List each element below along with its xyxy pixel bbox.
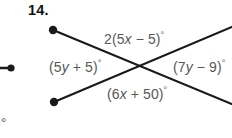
angle-label-right-post: − 9) [193, 59, 222, 75]
degree-symbol-icon: ° [164, 85, 168, 95]
geometry-figure: 14. 2(5x − 5)° (5y + 5)° (7y − 9)° (6x +… [0, 0, 232, 138]
angle-label-left-variable: y [62, 59, 69, 75]
neighbor-ray-endpoint-dot [7, 64, 14, 71]
angle-label-bottom: (6x + 50)° [107, 87, 167, 101]
angle-label-top-variable: x [125, 31, 132, 47]
neighbor-degree-text: )° [0, 115, 6, 131]
angle-label-right-variable: y [186, 59, 193, 75]
degree-symbol-icon: ° [98, 58, 102, 68]
angle-label-left: (5y + 5)° [49, 60, 101, 74]
angle-label-bottom-variable: x [120, 86, 127, 102]
angle-label-top-post: − 5) [132, 31, 161, 47]
angle-label-right-pre: (7 [173, 59, 186, 75]
angle-label-left-pre: (5 [49, 59, 62, 75]
neighbor-degree-fragment: )° [0, 116, 6, 130]
angle-label-left-post: + 5) [69, 59, 98, 75]
endpoint-dot-lower-left [50, 98, 58, 106]
angle-label-top-pre: 2(5 [104, 31, 125, 47]
angle-label-bottom-pre: (6 [107, 86, 120, 102]
degree-symbol-icon: ° [222, 58, 226, 68]
degree-symbol-icon: ° [161, 30, 165, 40]
angle-label-right: (7y − 9)° [173, 60, 225, 74]
endpoint-dot-upper-left [49, 26, 57, 34]
angle-label-top: 2(5x − 5)° [104, 32, 164, 46]
angle-label-bottom-post: + 50) [127, 86, 164, 102]
